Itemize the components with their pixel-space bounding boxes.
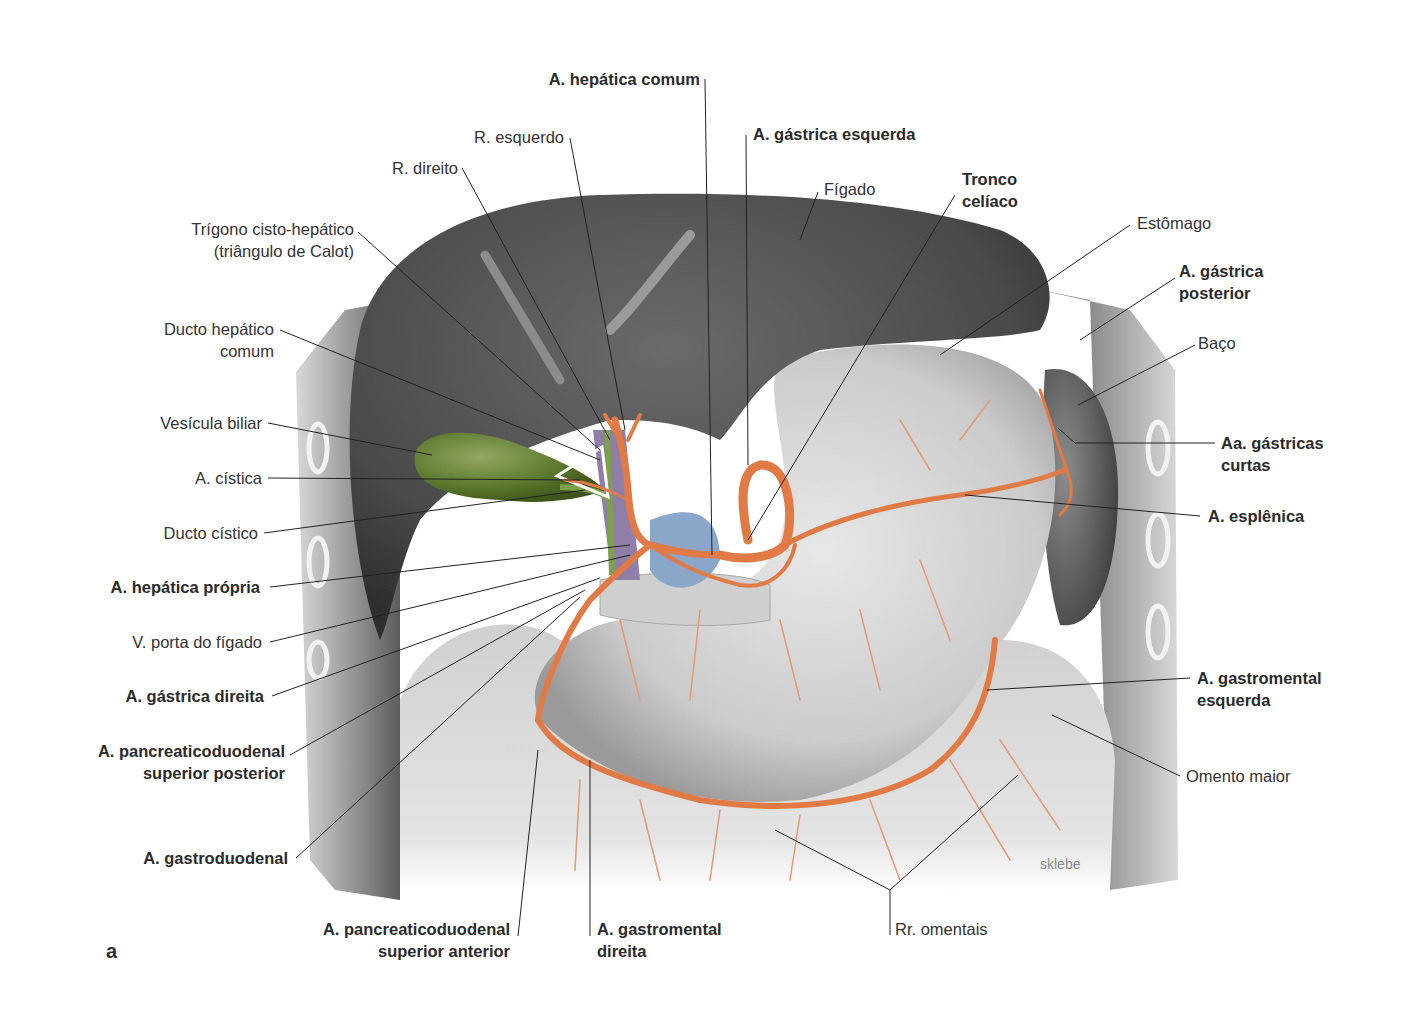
label-text: A. gástrica [1179, 260, 1263, 282]
label-text: R. esquerdo [400, 126, 564, 148]
anatomy-illustration [0, 0, 1403, 1028]
label-celiac-trunk: Tronco celíaco [962, 168, 1018, 212]
label-text: Trígono cisto-hepático [100, 218, 354, 240]
label-text: A. hepática comum [480, 68, 700, 90]
label-text: Vesícula biliar [80, 412, 262, 434]
label-splenic-artery: A. esplênica [1208, 505, 1304, 527]
label-ant-sup-pancreaticoduodenal: A. pancreaticoduodenal superior anterior [260, 918, 510, 962]
label-right-gastroomental-artery: A. gastromental direita [597, 918, 722, 962]
label-text: V. porta do fígado [60, 631, 262, 653]
label-text: A. gástrica esquerda [753, 123, 915, 145]
label-text: celíaco [962, 190, 1018, 212]
label-left-branch: R. esquerdo [400, 126, 564, 148]
label-posterior-gastric-artery: A. gástrica posterior [1179, 260, 1263, 304]
label-text: A. cística [80, 467, 262, 489]
label-right-branch: R. direito [330, 157, 458, 179]
label-text: A. pancreaticoduodenal [260, 918, 510, 940]
label-spleen: Baço [1198, 332, 1236, 354]
label-text: Baço [1198, 332, 1236, 354]
label-text: comum [100, 340, 274, 362]
label-common-hepatic-artery: A. hepática comum [480, 68, 700, 90]
label-text: curtas [1221, 454, 1324, 476]
artist-signature: sklebe [1040, 856, 1080, 872]
label-text: A. hepática própria [40, 576, 260, 598]
label-text: esquerda [1197, 689, 1322, 711]
label-common-hepatic-duct: Ducto hepático comum [100, 318, 274, 362]
label-text: posterior [1179, 282, 1263, 304]
label-text: Ducto hepático [100, 318, 274, 340]
label-text: Omento maior [1186, 765, 1291, 787]
label-left-gastric-artery: A. gástrica esquerda [753, 123, 915, 145]
label-cystic-artery: A. cística [80, 467, 262, 489]
label-calot-triangle: Trígono cisto-hepático (triângulo de Cal… [100, 218, 354, 262]
label-text: A. gástrica direita [60, 685, 264, 707]
label-greater-omentum: Omento maior [1186, 765, 1291, 787]
label-omental-branches: Rr. omentais [895, 918, 988, 940]
label-text: A. gastromental [1197, 667, 1322, 689]
label-text: R. direito [330, 157, 458, 179]
label-text: superior anterior [260, 940, 510, 962]
label-gastroduodenal-artery: A. gastroduodenal [60, 847, 288, 869]
label-text: A. pancreaticoduodenal [40, 740, 285, 762]
label-right-gastric-artery: A. gástrica direita [60, 685, 264, 707]
label-gallbladder: Vesícula biliar [80, 412, 262, 434]
label-portal-vein: V. porta do fígado [60, 631, 262, 653]
label-proper-hepatic-artery: A. hepática própria [40, 576, 260, 598]
label-text: Rr. omentais [895, 918, 988, 940]
label-text: superior posterior [40, 762, 285, 784]
label-text: direita [597, 940, 722, 962]
label-text: Fígado [824, 178, 875, 200]
label-cystic-duct: Ducto cístico [80, 522, 258, 544]
label-short-gastric-arteries: Aa. gástricas curtas [1221, 432, 1324, 476]
label-post-sup-pancreaticoduodenal: A. pancreaticoduodenal superior posterio… [40, 740, 285, 784]
label-liver: Fígado [824, 178, 875, 200]
label-text: (triângulo de Calot) [100, 240, 354, 262]
label-text: Ducto cístico [80, 522, 258, 544]
label-stomach: Estômago [1137, 212, 1211, 234]
label-left-gastroomental-artery: A. gastromental esquerda [1197, 667, 1322, 711]
label-text: A. esplênica [1208, 505, 1304, 527]
label-text: Aa. gástricas [1221, 432, 1324, 454]
label-text: A. gastroduodenal [60, 847, 288, 869]
label-text: Tronco [962, 168, 1018, 190]
label-text: Estômago [1137, 212, 1211, 234]
panel-letter: a [106, 940, 117, 963]
label-text: A. gastromental [597, 918, 722, 940]
